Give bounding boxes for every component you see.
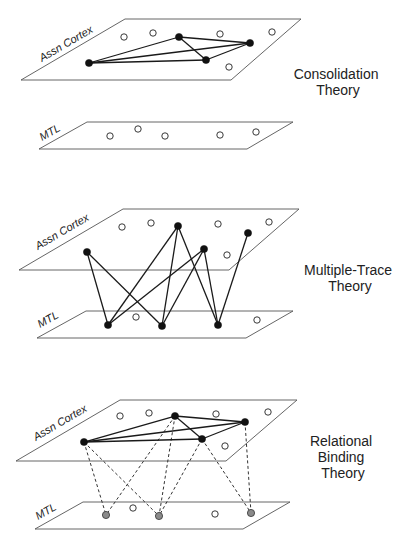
inactive-neuron-node [265, 409, 271, 415]
cortical-connection [179, 37, 250, 43]
memory-theories-diagram: Assn CortexMTL Consolidation Theory Assn… [0, 0, 411, 539]
relational-binding-theory-title: Relational Binding Theory [310, 433, 376, 481]
cortex-mtl-connection [84, 442, 106, 515]
active-neuron-node [244, 229, 251, 236]
active-neuron-node [158, 322, 165, 329]
graphics-layer: Assn CortexMTL [16, 400, 297, 529]
cortex-mtl-connection [178, 226, 218, 325]
inactive-neuron-node [222, 443, 228, 449]
multiple-trace-theory-title: Multiple-Trace Theory [304, 262, 396, 294]
active-neuron-node [175, 33, 182, 40]
graphics-layer: Assn CortexMTL [21, 19, 301, 149]
title-line: Theory [316, 82, 360, 98]
inactive-neuron-node [212, 511, 218, 517]
graphics-layer: Assn CortexMTL [19, 209, 299, 338]
binding-neuron-node [155, 512, 162, 519]
inactive-neuron-node [107, 133, 113, 139]
cortex-mtl-connection [245, 422, 251, 513]
title-line: Theory [321, 465, 365, 481]
inactive-neuron-node [121, 34, 127, 40]
binding-neuron-node [102, 511, 109, 518]
active-neuron-node [200, 245, 207, 252]
inactive-neuron-node [130, 505, 136, 511]
consolidation-theory-title: Consolidation Theory [294, 66, 383, 98]
cortical-connection [175, 416, 245, 422]
inactive-neuron-node [254, 317, 260, 323]
title-line: Binding [318, 449, 365, 465]
active-neuron-node [241, 418, 248, 425]
inactive-neuron-node [119, 224, 125, 230]
mtl-label: MTL [37, 121, 62, 142]
cortex-mtl-connection [204, 249, 218, 325]
mtl-label: MTL [35, 309, 60, 330]
inactive-neuron-node [269, 29, 275, 35]
active-neuron-node [85, 59, 92, 66]
multiple-trace-theory-panel: Assn CortexMTL Multiple-Trace Theory [19, 209, 396, 338]
title-line: Multiple-Trace [304, 262, 392, 278]
cortex-mtl-connection [108, 226, 178, 325]
active-neuron-node [171, 412, 178, 419]
inactive-neuron-node [217, 132, 223, 138]
inactive-neuron-node [253, 129, 259, 135]
inactive-neuron-node [146, 410, 152, 416]
active-neuron-node [202, 56, 209, 63]
cortical-connection [89, 37, 179, 63]
cortex-mtl-connection [106, 416, 175, 515]
title-line: Theory [328, 278, 372, 294]
active-neuron-node [80, 438, 87, 445]
assn-cortex-plane [16, 400, 297, 461]
inactive-neuron-node [135, 126, 141, 132]
inactive-neuron-node [162, 133, 168, 139]
inactive-neuron-node [150, 30, 156, 36]
active-neuron-node [174, 222, 181, 229]
inactive-neuron-node [224, 252, 230, 258]
assn-cortex-label: Assn Cortex [36, 23, 95, 64]
active-neuron-node [104, 321, 111, 328]
inactive-neuron-node [215, 221, 221, 227]
title-line: Relational [310, 433, 372, 449]
relational-binding-theory-panel: Assn CortexMTL Relational Binding Theory [16, 400, 376, 529]
active-neuron-node [214, 321, 221, 328]
inactive-neuron-node [148, 220, 154, 226]
consolidation-theory-panel: Assn CortexMTL Consolidation Theory [21, 19, 382, 149]
inactive-neuron-node [117, 413, 123, 419]
inactive-neuron-node [213, 411, 219, 417]
active-neuron-node [83, 248, 90, 255]
active-neuron-node [198, 435, 205, 442]
assn-cortex-plane [19, 209, 299, 270]
inactive-neuron-node [226, 64, 232, 70]
cortical-connection [84, 416, 175, 442]
inactive-neuron-node [217, 31, 223, 37]
inactive-neuron-node [266, 219, 272, 225]
assn-cortex-label: Assn Cortex [32, 211, 91, 252]
inactive-neuron-node [133, 314, 139, 320]
assn-cortex-label: Assn Cortex [30, 402, 89, 443]
title-line: Consolidation [294, 66, 379, 82]
binding-neuron-node [247, 509, 254, 516]
active-neuron-node [246, 39, 253, 46]
